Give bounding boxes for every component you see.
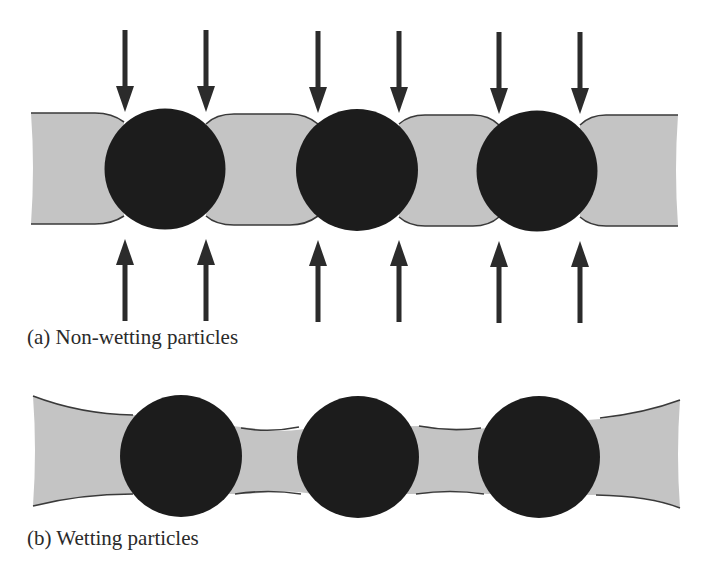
compression-arrows-bottom xyxy=(116,239,589,323)
particle-b-3 xyxy=(478,396,600,518)
arrow-up-icon xyxy=(390,240,408,322)
arrow-down-icon xyxy=(116,30,134,112)
arrow-down-icon xyxy=(390,31,408,113)
caption-a: (a) Non-wetting particles xyxy=(27,327,238,348)
arrow-down-icon xyxy=(309,31,327,113)
particle-a-3 xyxy=(477,111,598,232)
arrow-down-icon xyxy=(571,32,589,114)
arrow-down-icon xyxy=(490,32,508,114)
particle-b-2 xyxy=(297,396,419,518)
figure-canvas xyxy=(0,0,714,574)
caption-b: (b) Wetting particles xyxy=(27,528,199,549)
arrow-up-icon xyxy=(571,241,589,323)
arrow-up-icon xyxy=(490,241,508,323)
arrow-up-icon xyxy=(197,239,215,321)
particle-a-2 xyxy=(296,109,418,231)
compression-arrows-top xyxy=(116,30,589,114)
arrow-down-icon xyxy=(197,30,215,112)
figure: (a) Non-wetting particles (b) Wetting pa… xyxy=(0,0,714,574)
panel-a-non-wetting xyxy=(31,30,678,323)
particle-a-1 xyxy=(105,109,226,230)
particle-b-1 xyxy=(120,395,242,517)
arrow-up-icon xyxy=(309,240,327,322)
arrow-up-icon xyxy=(116,239,134,321)
panel-b-wetting xyxy=(33,395,680,518)
